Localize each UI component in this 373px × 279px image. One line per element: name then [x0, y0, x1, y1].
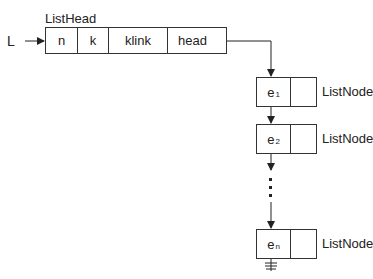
node-link	[290, 125, 317, 153]
list-head-title: ListHead	[45, 11, 96, 26]
field-k: k	[77, 28, 108, 53]
list-head-box: n k klink head	[45, 27, 227, 54]
list-node-2: e2	[256, 124, 317, 154]
node-elem: e1	[257, 78, 290, 106]
list-node-1: e1	[256, 77, 317, 107]
field-klink: klink	[108, 28, 167, 53]
list-node-n: en	[256, 229, 317, 259]
pointer-label: L	[7, 33, 15, 49]
field-head: head	[167, 28, 227, 53]
node-elem: e2	[257, 125, 290, 153]
field-n: n	[46, 28, 77, 53]
node-type-label: ListNode	[322, 131, 373, 146]
node-type-label: ListNode	[322, 236, 373, 251]
node-link	[290, 78, 317, 106]
node-link	[290, 230, 317, 258]
node-type-label: ListNode	[322, 84, 373, 99]
node-elem: en	[257, 230, 290, 258]
